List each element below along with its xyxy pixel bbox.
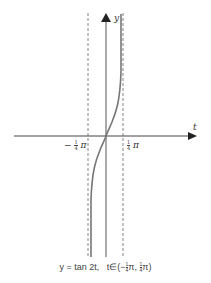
fraction: 14 <box>74 140 77 151</box>
caption-end: π) <box>142 262 151 272</box>
y-axis-label: y <box>114 13 119 23</box>
x-axis-arrow-icon <box>188 132 197 140</box>
caption-mid: π, <box>128 262 139 272</box>
pi-symbol: π <box>133 140 139 150</box>
caption-function: y = tan 2t, <box>59 262 99 272</box>
pi-symbol: π <box>80 140 86 150</box>
tick-neg-quarter-pi: − 14 π <box>64 140 86 151</box>
y-axis-arrow-icon <box>101 13 111 22</box>
minus-sign: − <box>64 140 72 150</box>
caption: y = tan 2t, t∈(−14π, 14π) <box>0 262 211 273</box>
tick-quarter-pi: 14 π <box>127 140 139 151</box>
caption-domain: t∈(− <box>107 262 126 272</box>
x-axis-label: t <box>193 122 197 132</box>
plot <box>0 0 211 283</box>
fraction: 14 <box>127 140 130 151</box>
